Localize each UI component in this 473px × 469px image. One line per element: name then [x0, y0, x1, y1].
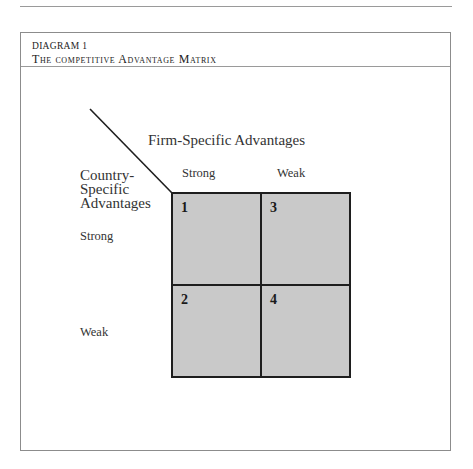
advantage-matrix: 1 3 2 4: [171, 192, 351, 378]
cell-number: 2: [181, 292, 188, 308]
row-axis-title-line-1: Country-: [80, 168, 151, 182]
running-header-rule: [20, 6, 452, 7]
cell-number: 4: [270, 292, 277, 308]
column-label-weak: Weak: [277, 166, 305, 181]
row-label-strong: Strong: [80, 229, 113, 244]
cell-number: 3: [270, 200, 277, 216]
row-axis-title-line-3: Advantages: [80, 196, 151, 210]
cell-number: 1: [181, 200, 188, 216]
row-axis-title: Country- Specific Advantages: [80, 168, 151, 210]
matrix-cell-3: 3: [261, 194, 349, 285]
figure-label: DIAGRAM 1: [32, 41, 87, 51]
matrix-cell-1: 1: [173, 194, 261, 285]
column-label-strong: Strong: [182, 166, 215, 181]
matrix-cell-2: 2: [173, 285, 261, 376]
column-axis-title: Firm-Specific Advantages: [148, 132, 305, 149]
matrix-cell-4: 4: [261, 285, 349, 376]
row-label-weak: Weak: [80, 325, 108, 340]
row-axis-title-line-2: Specific: [80, 182, 151, 196]
figure-title: The competitive Advantage Matrix: [32, 52, 217, 67]
header-divider: [21, 66, 450, 67]
